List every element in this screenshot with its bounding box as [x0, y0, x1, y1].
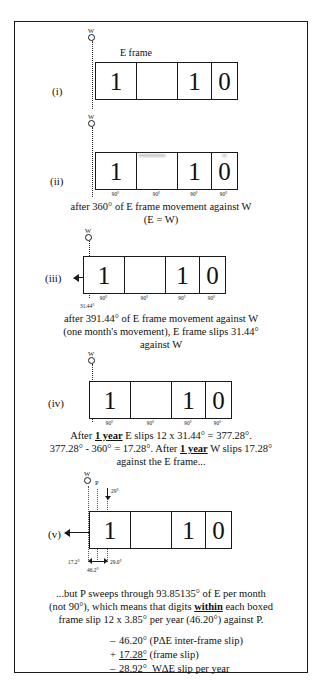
final-caption-line3: frame slip 12 x 3.85° per year (46.20°) … — [22, 614, 300, 627]
marker-label-w-iv: W — [88, 350, 94, 357]
caption-iv-line1-a: After — [70, 430, 95, 441]
scan-artifact — [222, 154, 227, 157]
measure-span-arrow — [88, 558, 108, 565]
measure-left-label: 17.2° — [68, 559, 80, 565]
equation-value: 46.20° — [119, 635, 147, 646]
figure-page: (i) W E frame 1 1 0 (ii) W 1 1 0 90° 90°… — [0, 0, 326, 694]
e-frame-iv: 1 1 0 — [89, 381, 232, 419]
equation-value: 17.28° — [119, 649, 147, 660]
equation-operator: + — [110, 648, 119, 662]
frame-cell: 1 — [90, 382, 131, 418]
slip-equation-block: –46.20° (PΔE inter-frame slip) +17.28° (… — [110, 634, 243, 676]
row-label-iv: (iv) — [48, 397, 64, 409]
row-label-i: (i) — [52, 85, 62, 97]
caption-iv-line1-b: E slips 12 x 31.44° = 377.28°. — [123, 430, 252, 441]
tick-row-iii: 90° 90° 90° 90° — [83, 295, 224, 301]
p-angle-label: 29° — [111, 488, 119, 494]
frame-cell: 0 — [212, 63, 237, 99]
equation-description: WΔE slip per year — [152, 663, 230, 674]
tick-90: 90° — [136, 191, 177, 197]
tick-90: 90° — [205, 420, 230, 426]
e-frame-iii: 1 1 0 — [83, 256, 226, 294]
e-frame-i: 1 1 0 — [95, 62, 238, 100]
tick-90: 90° — [83, 295, 124, 301]
marker-circle-w-i — [88, 34, 95, 41]
frame-cell: 1 — [84, 257, 125, 293]
equation-operator: – — [110, 634, 119, 648]
tick-90: 90° — [177, 191, 211, 197]
marker-label-w-ii: W — [88, 113, 94, 120]
frame-cell: 0 — [212, 153, 237, 189]
marker-label-w-i: W — [88, 27, 94, 34]
frame-cell: 1 — [172, 512, 206, 548]
row-label-iii: (iii) — [45, 272, 62, 284]
final-caption-line1: ...but P sweeps through 93.85135° of E p… — [22, 588, 300, 601]
frame-cell — [125, 257, 166, 293]
caption-ii-line1: after 360° of E frame movement against W — [22, 201, 300, 214]
frame-cell: 0 — [206, 382, 231, 418]
frame-cell: 0 — [200, 257, 225, 293]
tick-90: 90° — [95, 191, 136, 197]
equation-value: 28.92° — [119, 663, 147, 674]
tick-90: 90° — [171, 420, 205, 426]
caption-iv-line2-b: W slips 17.28° — [208, 443, 273, 454]
equation-row: –28.92° WΔE slip per year — [110, 662, 243, 676]
tick-90: 90° — [124, 295, 165, 301]
frame-cell: 1 — [90, 512, 131, 548]
tick-90: 90° — [211, 191, 236, 197]
caption-iv-line2-a: 377.28° - 360° = 17.28°. After — [50, 443, 180, 454]
caption-iv-line2: 377.28° - 360° = 17.28°. After 1 year W … — [22, 443, 300, 456]
marker-circle-w-iii — [85, 234, 92, 241]
caption-iv-line1-u: 1 year — [95, 430, 123, 441]
frame-cell: 1 — [178, 153, 212, 189]
equation-row: –46.20° (PΔE inter-frame slip) — [110, 634, 243, 648]
tick-90: 90° — [165, 295, 199, 301]
direction-arrow-v — [64, 528, 92, 537]
caption-ii-line2: (E = W) — [22, 214, 300, 227]
frame-cell: 1 — [96, 63, 137, 99]
caption-iii-line2: (one month's movement), E frame slips 31… — [22, 326, 300, 339]
scan-artifact — [138, 154, 166, 157]
equation-description: (frame slip) — [149, 649, 198, 660]
row-label-ii: (ii) — [50, 175, 63, 187]
e-frame-title: E frame — [120, 47, 152, 58]
equation-operator: – — [110, 662, 119, 676]
frame-cell: 1 — [172, 382, 206, 418]
measure-total-label: 46.2° — [87, 567, 99, 573]
slip-label-iii: 31.44° — [80, 303, 94, 309]
final-caption-line2-a: (not 90°), which means that digits — [49, 601, 194, 612]
tick-90: 90° — [89, 420, 130, 426]
tick-90: 90° — [199, 295, 224, 301]
equation-description: (PΔE inter-frame slip) — [149, 635, 242, 646]
e-frame-v: 1 1 0 — [89, 511, 232, 549]
tick-row-ii: 90° 90° 90° 90° — [95, 191, 236, 197]
caption-iii-line3: against W — [22, 339, 300, 352]
frame-cell: 1 — [166, 257, 200, 293]
row-label-v: (v) — [48, 528, 61, 540]
final-caption-line2-b: each boxed — [223, 601, 273, 612]
frame-cell — [131, 512, 172, 548]
caption-iii-line1: after 391.44° of E frame movement agains… — [22, 313, 300, 326]
marker-label-p-v: P — [95, 479, 99, 486]
frame-cell: 1 — [178, 63, 212, 99]
w-reference-line-i — [92, 41, 93, 109]
final-caption-line2-u: within — [194, 601, 223, 612]
frame-cell — [131, 382, 172, 418]
measure-right-label: 29.0° — [110, 559, 122, 565]
marker-circle-w-iv — [88, 357, 95, 364]
marker-circle-w-ii — [88, 120, 95, 127]
tick-90: 90° — [130, 420, 171, 426]
e-frame-ii: 1 1 0 — [95, 152, 238, 190]
caption-iv-line1: After 1 year E slips 12 x 31.44° = 377.2… — [22, 430, 300, 443]
caption-iv-line3: against the E frame... — [22, 456, 300, 469]
equation-row: +17.28° (frame slip) — [110, 648, 243, 662]
marker-label-w-v: W — [84, 470, 90, 477]
frame-cell: 1 — [96, 153, 137, 189]
frame-cell: 0 — [206, 512, 231, 548]
frame-cell — [137, 63, 178, 99]
marker-circle-w-v — [84, 477, 91, 484]
final-caption-line2: (not 90°), which means that digits withi… — [22, 601, 300, 614]
frame-cell — [137, 153, 178, 189]
caption-iv-line2-u: 1 year — [180, 443, 208, 454]
w-reference-line-ii — [92, 127, 93, 197]
